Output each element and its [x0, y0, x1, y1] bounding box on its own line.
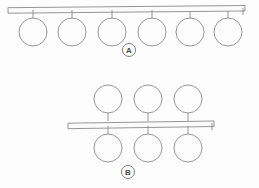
node-below-a-circle[interactable] [138, 18, 166, 46]
diagram-canvas: AB [0, 0, 259, 188]
node-below-a-circle[interactable] [58, 18, 86, 46]
diagram-svg: AB [0, 0, 259, 188]
node-above-b-circle[interactable] [134, 85, 162, 113]
rail-a [8, 6, 245, 14]
node-below-b-circle[interactable] [94, 134, 122, 162]
node-above-b-circle[interactable] [94, 85, 122, 113]
diagram-group-b: B [68, 85, 214, 179]
node-below-a-circle[interactable] [176, 18, 204, 46]
node-above-b-circle[interactable] [174, 85, 202, 113]
group-label-b: B [125, 168, 131, 177]
node-below-a-circle[interactable] [214, 18, 242, 46]
diagram-group-a: A [8, 6, 245, 57]
node-below-a-circle[interactable] [98, 18, 126, 46]
node-below-a-circle[interactable] [19, 18, 47, 46]
rail-b [68, 121, 214, 129]
groups-layer: AB [8, 6, 245, 179]
node-below-b-circle[interactable] [174, 134, 202, 162]
node-below-b-circle[interactable] [134, 134, 162, 162]
group-label-a: A [126, 46, 132, 55]
